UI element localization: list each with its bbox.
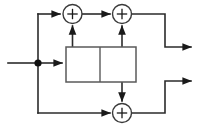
lower-output-wire: [132, 81, 192, 113]
right-cell[interactable]: [100, 47, 136, 82]
left-cell[interactable]: [66, 47, 100, 82]
input-branch-node: [34, 59, 41, 66]
two-cell-processing-block[interactable]: [66, 47, 136, 82]
block-diagram-canvas: [0, 0, 211, 128]
block-diagram-svg: [0, 0, 211, 128]
adder-top-right[interactable]: [113, 5, 132, 24]
adder-top-left[interactable]: [63, 5, 82, 24]
upper-output-wire: [132, 14, 192, 47]
adder-bottom[interactable]: [113, 104, 132, 123]
